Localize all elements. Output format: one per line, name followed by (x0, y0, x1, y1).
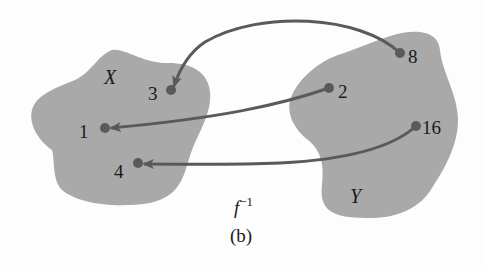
label-3: 3 (148, 83, 158, 104)
function-label-superscript: −1 (239, 194, 253, 209)
label-2: 2 (338, 81, 348, 102)
point-8 (395, 48, 405, 58)
point-3 (166, 85, 176, 95)
figure-caption: (b) (230, 225, 252, 247)
inverse-function-diagram: X Y 3 1 4 8 2 16 f−1 (b) (0, 0, 482, 270)
point-1 (100, 123, 110, 133)
label-16: 16 (422, 117, 441, 138)
point-4 (133, 158, 143, 168)
label-1: 1 (79, 121, 89, 142)
function-label: f−1 (234, 194, 253, 218)
label-4: 4 (114, 161, 124, 182)
set-x-label: X (103, 66, 117, 88)
label-8: 8 (408, 46, 418, 67)
set-y-label: Y (350, 185, 363, 207)
point-16 (411, 121, 421, 131)
point-2 (324, 83, 334, 93)
